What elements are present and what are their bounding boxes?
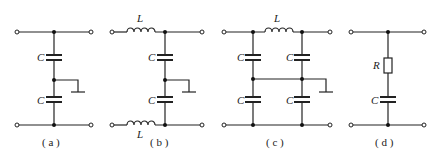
cap-label: C bbox=[237, 94, 245, 106]
ground-icon bbox=[165, 80, 196, 92]
cap-label: C bbox=[371, 94, 379, 106]
cap-label: C bbox=[37, 94, 45, 106]
circuit-d: R C ( d ) bbox=[349, 30, 426, 149]
caption-d: ( d ) bbox=[375, 136, 394, 149]
cap-label: C bbox=[237, 51, 245, 63]
capacitor-icon bbox=[380, 97, 396, 102]
capacitor-icon bbox=[245, 55, 261, 60]
caption-c: ( c ) bbox=[266, 136, 284, 149]
filter-circuits-figure: C C ( a ) L L C C ( b ) bbox=[0, 0, 441, 159]
cap-label: C bbox=[148, 51, 156, 63]
inductor-icon bbox=[265, 28, 293, 32]
caption-a: ( a ) bbox=[42, 136, 60, 149]
capacitor-icon bbox=[294, 97, 310, 102]
capacitor-icon bbox=[46, 97, 62, 102]
inductor-icon bbox=[127, 28, 155, 32]
res-label: R bbox=[372, 59, 380, 71]
ind-label: L bbox=[136, 128, 143, 140]
circuit-a: C C ( a ) bbox=[15, 30, 93, 149]
resistor-icon bbox=[384, 58, 392, 73]
capacitor-icon bbox=[46, 55, 62, 60]
ground-icon bbox=[54, 80, 85, 92]
capacitor-icon bbox=[157, 97, 173, 102]
cap-label: C bbox=[286, 94, 294, 106]
cap-label: C bbox=[37, 51, 45, 63]
capacitor-icon bbox=[294, 55, 310, 60]
caption-b: ( b ) bbox=[150, 136, 169, 149]
cap-label: C bbox=[286, 51, 294, 63]
circuit-c: L C C C C ( c ) bbox=[222, 12, 333, 149]
capacitor-icon bbox=[245, 97, 261, 102]
ind-label: L bbox=[136, 12, 143, 24]
ground-icon bbox=[302, 79, 333, 92]
inductor-icon bbox=[127, 121, 155, 125]
circuit-b: L L C C ( b ) bbox=[110, 12, 204, 149]
ind-label: L bbox=[273, 12, 280, 24]
capacitor-icon bbox=[157, 55, 173, 60]
cap-label: C bbox=[148, 94, 156, 106]
